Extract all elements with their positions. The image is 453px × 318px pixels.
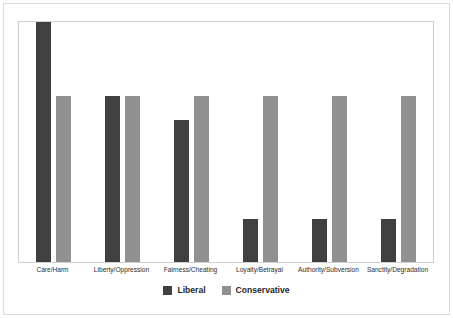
bar-conservative[interactable] xyxy=(332,96,347,262)
bar-conservative[interactable] xyxy=(125,96,140,262)
x-axis-label: Fairness/Cheating xyxy=(156,265,225,275)
legend-label: Liberal xyxy=(177,285,205,295)
bar-liberal[interactable] xyxy=(174,120,189,262)
chart-page: Care/HarmLiberty/OppressionFairness/Chea… xyxy=(0,0,453,318)
x-axis-labels: Care/HarmLiberty/OppressionFairness/Chea… xyxy=(18,265,434,279)
legend-swatch-icon xyxy=(222,286,231,295)
bar-group xyxy=(295,22,364,262)
bar-liberal[interactable] xyxy=(312,219,327,262)
legend-label: Conservative xyxy=(236,285,290,295)
bar-group xyxy=(157,22,226,262)
chart-legend: LiberalConservative xyxy=(0,285,453,295)
bar-group xyxy=(88,22,157,262)
bar-conservative[interactable] xyxy=(56,96,71,262)
bar-chart xyxy=(18,21,434,263)
bar-group xyxy=(364,22,433,262)
legend-swatch-icon xyxy=(163,286,172,295)
plot-area xyxy=(19,22,433,262)
bar-liberal[interactable] xyxy=(243,219,258,262)
bar-group xyxy=(226,22,295,262)
bar-group xyxy=(19,22,88,262)
x-axis-label: Sanctity/Degradation xyxy=(363,265,432,275)
bar-conservative[interactable] xyxy=(401,96,416,262)
bar-liberal[interactable] xyxy=(105,96,120,262)
bar-liberal[interactable] xyxy=(36,22,51,262)
bar-conservative[interactable] xyxy=(263,96,278,262)
x-axis-label: Loyalty/Betrayal xyxy=(225,265,294,275)
x-axis-label: Care/Harm xyxy=(18,265,87,275)
legend-item-conservative[interactable]: Conservative xyxy=(222,285,290,295)
bar-conservative[interactable] xyxy=(194,96,209,262)
bar-liberal[interactable] xyxy=(381,219,396,262)
legend-item-liberal[interactable]: Liberal xyxy=(163,285,205,295)
x-axis-label: Authority/Subversion xyxy=(294,265,363,275)
x-axis-label: Liberty/Oppression xyxy=(87,265,156,275)
